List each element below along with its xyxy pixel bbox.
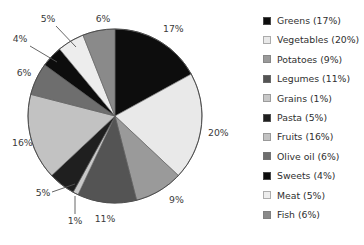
legend-item-label: Greens (17%) bbox=[277, 16, 341, 25]
legend-swatch-icon bbox=[263, 191, 271, 199]
legend-swatch-icon bbox=[263, 114, 271, 122]
pie-slices-group bbox=[28, 29, 202, 203]
legend-item-vegetables[interactable]: Vegetables (20%) bbox=[263, 30, 364, 49]
slice-value-label-pasta: 5% bbox=[36, 187, 51, 198]
legend-item-label: Grains (1%) bbox=[277, 94, 332, 103]
legend-item-potatoes[interactable]: Potatoes (9%) bbox=[263, 50, 364, 69]
legend-item-pasta[interactable]: Pasta (5%) bbox=[263, 108, 364, 127]
legend-item-fruits[interactable]: Fruits (16%) bbox=[263, 127, 364, 146]
legend-item-label: Pasta (5%) bbox=[277, 113, 327, 122]
legend-item-label: Meat (5%) bbox=[277, 191, 325, 200]
slice-value-label-grains: 1% bbox=[68, 215, 83, 226]
legend-swatch-icon bbox=[263, 94, 271, 102]
legend-swatch-icon bbox=[263, 172, 271, 180]
slice-value-label-sweets: 4% bbox=[13, 33, 28, 44]
legend-item-fish[interactable]: Fish (6%) bbox=[263, 205, 364, 224]
leader-line-sweets bbox=[30, 46, 57, 62]
legend-item-label: Sweets (4%) bbox=[277, 171, 335, 180]
legend-swatch-icon bbox=[263, 152, 271, 160]
pie-chart-graphic: 17%20%9%11%1%5%16%6%4%5%6% bbox=[0, 0, 245, 245]
legend-swatch-icon bbox=[263, 211, 271, 219]
legend-swatch-icon bbox=[263, 133, 271, 141]
legend-item-grains[interactable]: Grains (1%) bbox=[263, 89, 364, 108]
legend-item-olive-oil[interactable]: Olive oil (6%) bbox=[263, 147, 364, 166]
slice-value-label-fruits: 16% bbox=[12, 137, 33, 148]
slice-value-label-meat: 5% bbox=[41, 13, 56, 24]
slice-value-label-fish: 6% bbox=[96, 13, 111, 24]
legend-item-label: Olive oil (6%) bbox=[277, 152, 339, 161]
slice-value-label-potatoes: 9% bbox=[169, 194, 184, 205]
legend-item-legumes[interactable]: Legumes (11%) bbox=[263, 69, 364, 88]
legend-item-greens[interactable]: Greens (17%) bbox=[263, 11, 364, 30]
slice-value-label-olive-oil: 6% bbox=[17, 67, 32, 78]
legend-item-meat[interactable]: Meat (5%) bbox=[263, 186, 364, 205]
legend-item-label: Fruits (16%) bbox=[277, 132, 333, 141]
legend-item-label: Fish (6%) bbox=[277, 210, 320, 219]
legend-swatch-icon bbox=[263, 55, 271, 63]
legend-swatch-icon bbox=[263, 17, 271, 25]
slice-value-label-greens: 17% bbox=[163, 23, 184, 34]
legend-item-label: Potatoes (9%) bbox=[277, 55, 342, 64]
legend-swatch-icon bbox=[263, 36, 271, 44]
legend-item-label: Vegetables (20%) bbox=[277, 35, 359, 44]
legend-swatch-icon bbox=[263, 75, 271, 83]
chart-legend: Greens (17%)Vegetables (20%)Potatoes (9%… bbox=[263, 11, 364, 224]
slice-value-label-vegetables: 20% bbox=[208, 127, 229, 138]
legend-item-label: Legumes (11%) bbox=[277, 74, 350, 83]
pie-chart-figure: 17%20%9%11%1%5%16%6%4%5%6% Greens (17%)V… bbox=[0, 0, 364, 245]
legend-item-sweets[interactable]: Sweets (4%) bbox=[263, 166, 364, 185]
slice-value-label-legumes: 11% bbox=[95, 213, 116, 224]
